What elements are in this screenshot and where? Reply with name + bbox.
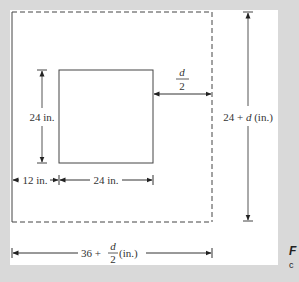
offset-denominator: 2 bbox=[179, 80, 185, 92]
inner-height-label: 24 in. bbox=[29, 111, 54, 123]
offset-numerator: d bbox=[179, 66, 185, 78]
outer-width-numerator: d bbox=[110, 240, 116, 252]
inner-width-label: 24 in. bbox=[93, 174, 118, 186]
outer-height-label: 24 + d (in.) bbox=[223, 111, 273, 124]
left-margin-label: 12 in. bbox=[22, 174, 47, 186]
outer-width-suffix: (in.) bbox=[119, 247, 138, 260]
caption-fragment-1: F bbox=[289, 244, 296, 258]
caption-fragment-2: c bbox=[289, 260, 294, 270]
outer-width-denominator: 2 bbox=[110, 253, 116, 265]
inner-square bbox=[59, 70, 153, 163]
dimension-diagram: 24 in. d 2 24 + d (in.) 12 in. 24 in. 36… bbox=[0, 0, 299, 282]
outer-width-prefix: 36 + bbox=[81, 247, 101, 259]
